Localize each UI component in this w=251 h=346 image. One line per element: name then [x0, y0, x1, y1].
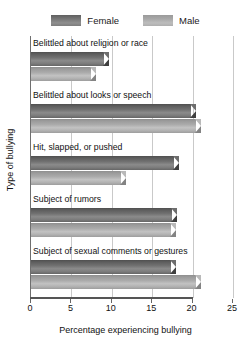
x-tick-label: 25 — [227, 303, 237, 314]
bar-tip-icon — [171, 208, 177, 222]
bar — [31, 104, 191, 118]
plot-area: Belittled about religion or raceBelittle… — [30, 36, 232, 298]
bar-chart: Female Male Belittled about religion or … — [0, 0, 251, 346]
category-label: Subject of rumors — [33, 194, 101, 205]
bar-tip-icon — [90, 67, 96, 81]
legend-swatch-female-icon — [51, 15, 81, 26]
legend-label-female: Female — [87, 15, 119, 26]
bar-tip-icon — [103, 52, 109, 66]
bar — [31, 223, 171, 237]
category-label: Belittled about looks or speech — [33, 90, 151, 101]
bar-group: Hit, slapped, or pushed — [31, 142, 232, 185]
bar — [31, 260, 171, 274]
x-axis-title: Percentage experiencing bullying — [0, 325, 251, 335]
x-tick-label: 10 — [106, 303, 116, 314]
x-tick-label: 0 — [27, 303, 32, 314]
bar-group: Belittled about looks or speech — [31, 90, 232, 133]
category-label: Hit, slapped, or pushed — [33, 142, 122, 153]
chart-legend: Female Male — [0, 9, 251, 31]
y-axis-title: Type of bullying — [5, 95, 15, 225]
bar-group: Subject of sexual comments or gestures — [31, 246, 232, 289]
legend-swatch-male-icon — [143, 15, 173, 26]
bar-tip-icon — [170, 260, 176, 274]
x-axis-ticks: 0510152025 — [0, 299, 251, 313]
bar-body — [31, 52, 104, 66]
bar-groups: Belittled about religion or raceBelittle… — [31, 36, 232, 298]
bar — [31, 52, 104, 66]
bar-group: Belittled about religion or race — [31, 38, 232, 81]
bar — [31, 275, 196, 289]
bar-tip-icon — [120, 171, 126, 185]
x-tick-label: 15 — [146, 303, 156, 314]
x-tick-label: 5 — [68, 303, 73, 314]
bar-body — [31, 171, 121, 185]
bar-tip-icon — [173, 156, 179, 170]
bar-tip-icon — [195, 119, 201, 133]
bar-body — [31, 156, 174, 170]
gridline — [233, 36, 234, 298]
bar-tip-icon — [190, 104, 196, 118]
legend-entry-male: Male — [143, 15, 200, 26]
bar — [31, 67, 91, 81]
bar-body — [31, 67, 91, 81]
category-label: Belittled about religion or race — [33, 38, 148, 49]
bar-body — [31, 119, 196, 133]
bar-body — [31, 208, 172, 222]
category-label: Subject of sexual comments or gestures — [33, 246, 188, 257]
legend-entry-female: Female — [51, 15, 119, 26]
bar-body — [31, 275, 196, 289]
bar-body — [31, 104, 191, 118]
bar — [31, 208, 172, 222]
bar — [31, 171, 121, 185]
legend-label-male: Male — [179, 15, 200, 26]
bar-group: Subject of rumors — [31, 194, 232, 237]
bar — [31, 119, 196, 133]
x-tick-label: 20 — [187, 303, 197, 314]
bar-tip-icon — [170, 223, 176, 237]
bar — [31, 156, 174, 170]
bar-body — [31, 223, 171, 237]
bar-tip-icon — [195, 275, 201, 289]
bar-body — [31, 260, 171, 274]
